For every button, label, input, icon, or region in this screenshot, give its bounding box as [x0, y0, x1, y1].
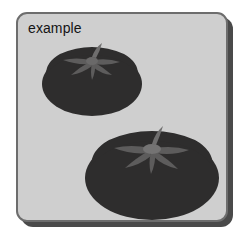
tomato-calyx-center [143, 144, 161, 154]
example-card: example [16, 12, 228, 222]
tomato-upper-left-graphic [40, 40, 144, 118]
tomato-calyx-center [86, 57, 98, 65]
tomato-lower-right [83, 122, 221, 222]
tomato-lower-right-graphic [83, 122, 221, 222]
image-canvas: example [0, 0, 247, 246]
tomato-upper-left [40, 40, 144, 118]
card-label: example [28, 20, 82, 36]
